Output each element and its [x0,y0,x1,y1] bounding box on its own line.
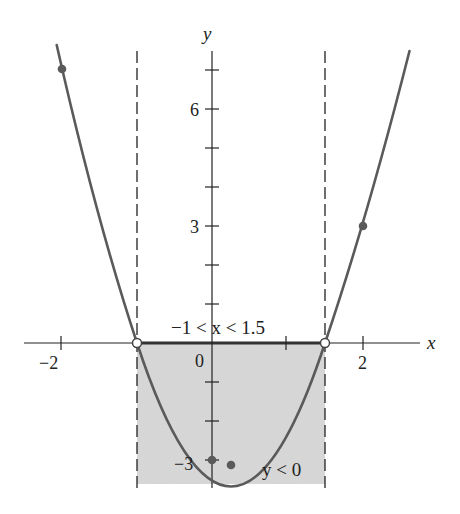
y-tick-label-3: 3 [190,217,199,237]
point-vertex [227,461,236,470]
point-neg2-7 [58,65,67,74]
open-point-1.5 [321,339,330,348]
open-point-neg1 [133,339,142,348]
y-tick-label-6: 6 [190,100,199,120]
point-0-neg3 [208,456,217,465]
x-tick-label-0: 0 [195,351,204,371]
chart: x y −2 0 2 6 3 −3 −1 < x < 1.5 y < 0 [0,0,460,514]
region-annotation: y < 0 [262,459,301,480]
point-2-3 [359,222,368,231]
x-tick-label-neg2: −2 [39,353,58,373]
x-tick-label-2: 2 [358,353,367,373]
y-axis-label: y [201,23,212,44]
x-axis-label: x [426,332,436,353]
y-tick-label-neg3: −3 [174,454,193,474]
interval-annotation: −1 < x < 1.5 [171,317,265,338]
